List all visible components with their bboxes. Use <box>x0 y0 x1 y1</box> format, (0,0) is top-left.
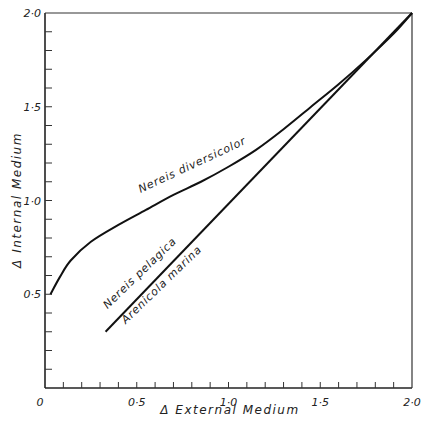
series-nereis-pelagica-arenicola-marina <box>106 13 412 332</box>
x-tick-label: 0·5 <box>128 396 146 409</box>
chart: 00·51·01·52·00·51·01·52·0 Δ External Med… <box>0 0 424 422</box>
x-axis-title: Δ External Medium <box>159 403 299 417</box>
x-tick-label: 2·0 <box>403 396 421 409</box>
x-tick-label: 0 <box>37 396 44 409</box>
y-axis-title: Δ Internal Medium <box>10 132 24 269</box>
y-tick-label: 2·0 <box>24 7 42 20</box>
x-tick-label: 1·5 <box>312 396 330 409</box>
y-tick-label: 0·5 <box>24 288 42 301</box>
y-tick-label: 1·5 <box>24 101 42 114</box>
y-tick-label: 1·0 <box>24 195 42 208</box>
series <box>51 13 412 332</box>
